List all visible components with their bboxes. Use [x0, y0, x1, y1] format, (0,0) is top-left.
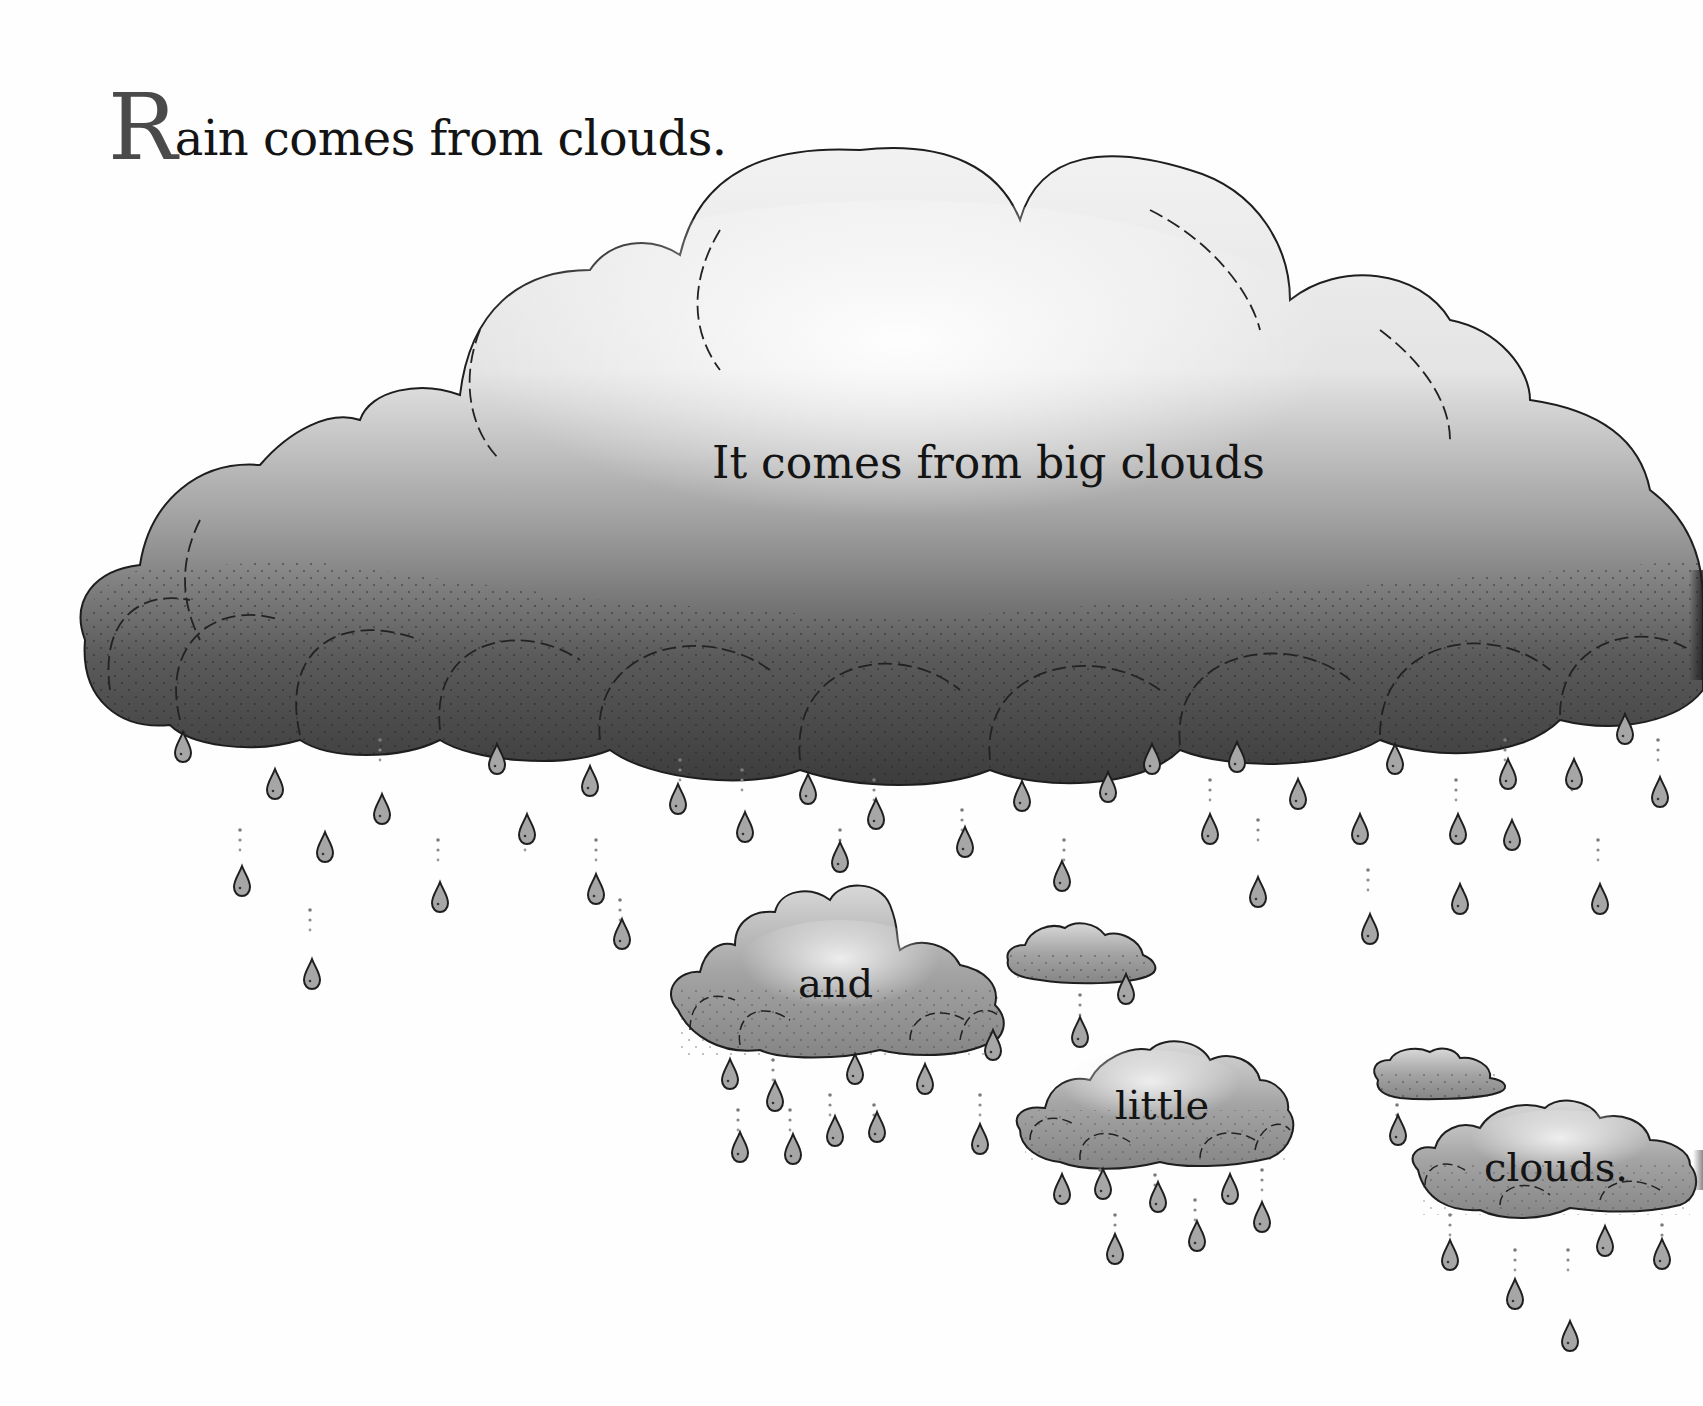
- drop-cap: R: [108, 74, 177, 181]
- title-rest: ain comes from clouds.: [175, 110, 727, 166]
- caption-clouds: clouds.: [1484, 1147, 1628, 1187]
- and-cloud: [671, 886, 1004, 1164]
- clouds-cloud: [1413, 1101, 1696, 1351]
- little-cloud: [1017, 1041, 1293, 1264]
- book-page: Rain comes from clouds. It comes from bi…: [0, 0, 1703, 1406]
- page-edge-shadow: [1689, 570, 1703, 680]
- tiny-cloud-1: [1007, 923, 1155, 1047]
- page-edge-shadow: [1693, 1150, 1703, 1190]
- page-title: Rain comes from clouds.: [108, 82, 727, 174]
- caption-and: and: [798, 963, 873, 1003]
- rain-illustration: [0, 0, 1703, 1406]
- caption-big-clouds: It comes from big clouds: [712, 441, 1265, 485]
- caption-little: little: [1115, 1085, 1209, 1125]
